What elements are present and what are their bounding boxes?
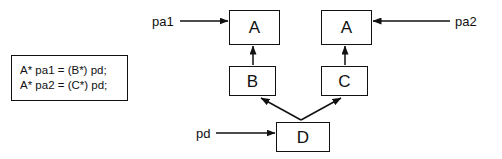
edge-d-to-c bbox=[301, 98, 341, 120]
class-node-b: B bbox=[229, 66, 276, 96]
class-node-label: B bbox=[247, 73, 258, 90]
class-node-label: D bbox=[297, 129, 309, 146]
class-node-label: C bbox=[338, 73, 350, 90]
code-line: A* pa1 = (B*) pd; bbox=[20, 63, 127, 78]
pointer-label-pa1: pa1 bbox=[152, 15, 174, 28]
class-node-a-right: A bbox=[321, 10, 372, 45]
pointer-label-pd: pd bbox=[196, 127, 210, 140]
code-line: A* pa2 = (C*) pd; bbox=[20, 78, 127, 93]
class-node-c: C bbox=[321, 66, 368, 96]
class-node-label: A bbox=[249, 19, 260, 36]
class-node-label: A bbox=[341, 19, 352, 36]
pointer-label-pa2: pa2 bbox=[455, 15, 477, 28]
class-node-a-left: A bbox=[229, 10, 280, 45]
diagram-canvas: A A B C D pa1 pa2 pd A* pa1 = (B*) pd; A… bbox=[0, 0, 502, 159]
class-node-d: D bbox=[276, 122, 330, 152]
code-annotation-box: A* pa1 = (B*) pd; A* pa2 = (C*) pd; bbox=[11, 55, 128, 101]
edge-d-to-b bbox=[261, 98, 301, 120]
